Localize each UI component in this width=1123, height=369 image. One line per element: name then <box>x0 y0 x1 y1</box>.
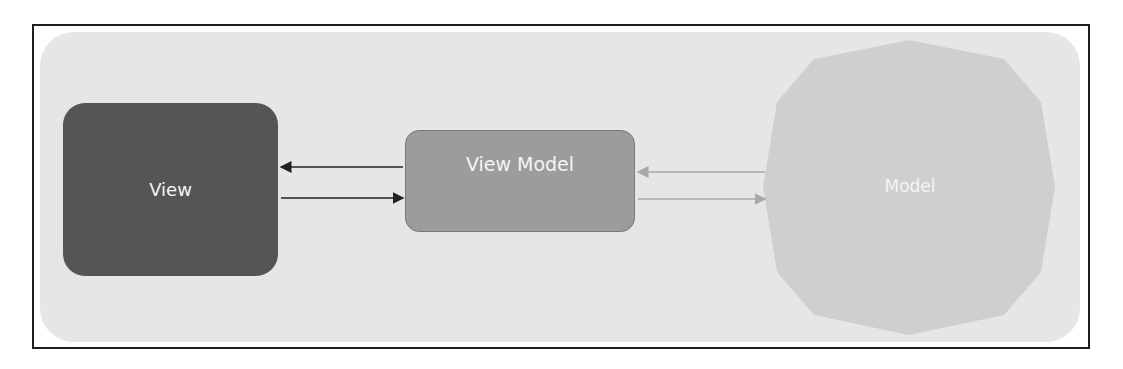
view-node: View <box>63 103 278 276</box>
view-model-node: View Model <box>405 130 635 232</box>
view-label: View <box>149 179 192 200</box>
view-model-label: View Model <box>466 153 574 231</box>
model-label: Model <box>860 176 960 196</box>
